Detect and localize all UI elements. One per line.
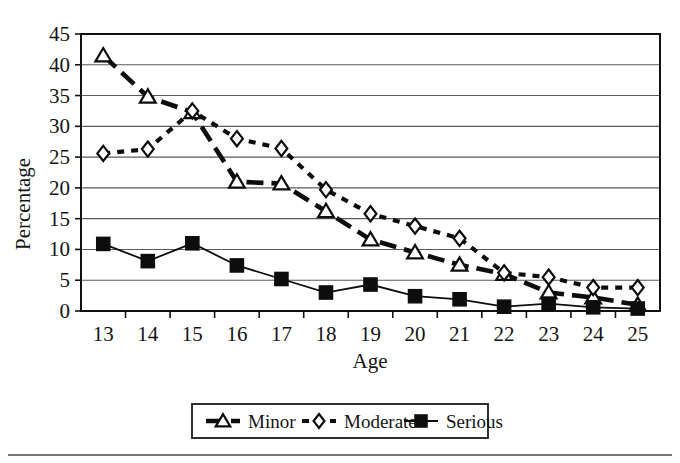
x-axis-title: Age — [353, 349, 388, 373]
legend-items: MinorModerateSerious — [206, 411, 503, 432]
x-tick-label: 25 — [627, 322, 648, 346]
data-point-marker — [408, 290, 421, 303]
data-point-marker — [587, 301, 600, 314]
data-point-marker — [97, 237, 110, 250]
y-tick-label: 30 — [49, 114, 70, 138]
data-point-marker — [631, 302, 644, 315]
data-point-marker — [230, 259, 243, 272]
x-tick-label: 21 — [449, 322, 470, 346]
x-tick-label: 22 — [494, 322, 515, 346]
data-point-marker — [319, 286, 332, 299]
chart-figure: 051015202530354045 131415161718192021222… — [0, 0, 680, 463]
x-tick-label: 23 — [538, 322, 559, 346]
x-tick-label: 19 — [360, 322, 381, 346]
data-point-marker — [415, 415, 427, 427]
data-point-marker — [453, 293, 466, 306]
y-tick-label: 10 — [49, 237, 70, 261]
x-tick-label: 20 — [405, 322, 426, 346]
chart-legend: MinorModerateSerious — [192, 404, 503, 438]
x-tick-label: 14 — [137, 322, 159, 346]
legend-item-moderate[interactable]: Moderate — [302, 411, 417, 432]
data-point-marker — [141, 255, 154, 268]
x-tick-label: 24 — [583, 322, 605, 346]
x-tick-label: 13 — [93, 322, 114, 346]
y-axis-title: Percentage — [11, 158, 35, 250]
x-tick-label: 16 — [226, 322, 247, 346]
y-tick-label: 40 — [49, 53, 70, 77]
data-point-marker — [364, 278, 377, 291]
y-tick-label: 20 — [49, 176, 70, 200]
y-tick-label: 15 — [49, 207, 70, 231]
y-tick-label: 45 — [49, 22, 70, 46]
data-point-marker — [186, 237, 199, 250]
data-point-marker — [542, 297, 555, 310]
canvas-background — [0, 0, 680, 463]
legend-label: Minor — [248, 411, 296, 432]
y-tick-label: 25 — [49, 145, 70, 169]
y-tick-label: 35 — [49, 84, 70, 108]
data-point-marker — [275, 272, 288, 285]
y-tick-label: 0 — [60, 299, 71, 323]
legend-label: Serious — [446, 411, 503, 432]
x-tick-label: 17 — [271, 322, 292, 346]
x-tick-label: 18 — [315, 322, 336, 346]
x-tick-label: 15 — [182, 322, 203, 346]
chart-svg: 051015202530354045 131415161718192021222… — [0, 0, 680, 463]
y-tick-label: 5 — [60, 268, 71, 292]
data-point-marker — [498, 300, 511, 313]
